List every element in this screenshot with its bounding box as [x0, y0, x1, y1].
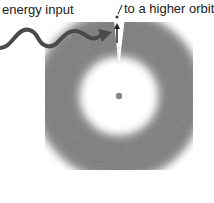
electron-orbit-diagram: energy input to a higher orbit	[0, 0, 214, 203]
orbit-graphic	[0, 0, 214, 203]
energy-input-label: energy input	[2, 3, 74, 16]
nucleus	[116, 93, 122, 99]
higher-orbit-label: to a higher orbit	[124, 2, 214, 15]
